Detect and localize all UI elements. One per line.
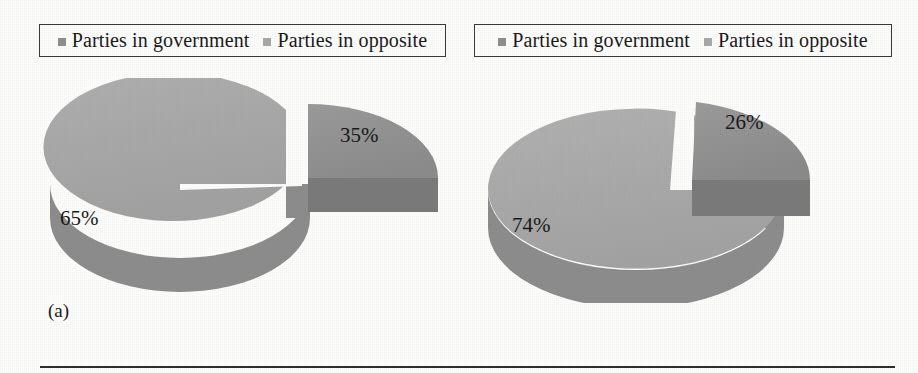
slice-main-a-cutwall bbox=[286, 184, 308, 218]
legend-label-government: Parties in government bbox=[512, 29, 690, 52]
legend-entry-opposite-a: Parties in opposite bbox=[263, 29, 427, 52]
pie-b-label-exploded: 26% bbox=[725, 110, 764, 135]
legend-entry-opposite-b: Parties in opposite bbox=[704, 29, 868, 52]
pie-a-label-main: 65% bbox=[60, 206, 99, 231]
pie-chart-a: 65% 35% bbox=[40, 78, 440, 293]
legend-swatch-government-icon bbox=[498, 38, 506, 46]
chart-panel-a: Parties in government Parties in opposit… bbox=[0, 0, 459, 345]
legend-label-opposite: Parties in opposite bbox=[718, 29, 868, 52]
pie-chart-b: 74% 26% bbox=[480, 78, 890, 303]
bottom-divider bbox=[40, 366, 895, 368]
slice-exploded-b-side bbox=[692, 180, 810, 216]
legend-label-government: Parties in government bbox=[72, 29, 250, 52]
legend-swatch-opposite-icon bbox=[263, 38, 271, 46]
pie-b-svg bbox=[480, 78, 890, 303]
legend-entry-government-a: Parties in government bbox=[58, 29, 250, 52]
slice-main-a bbox=[43, 78, 310, 292]
slice-main-a-top bbox=[43, 78, 286, 221]
slice-exploded-a bbox=[308, 104, 438, 212]
legend-swatch-opposite-icon bbox=[704, 38, 712, 46]
chart-panel-b: Parties in government Parties in opposit… bbox=[459, 0, 918, 345]
figure-container: Parties in government Parties in opposit… bbox=[0, 0, 918, 373]
legend-label-opposite: Parties in opposite bbox=[277, 29, 427, 52]
pie-a-label-exploded: 35% bbox=[340, 123, 379, 148]
slice-exploded-a-side bbox=[308, 178, 438, 212]
legend-a: Parties in government Parties in opposit… bbox=[39, 24, 446, 57]
subcaption-a: (a) bbox=[48, 300, 69, 322]
legend-entry-government-b: Parties in government bbox=[498, 29, 690, 52]
pie-b-label-main: 74% bbox=[512, 213, 551, 238]
pie-a-svg bbox=[40, 78, 440, 293]
legend-swatch-government-icon bbox=[58, 38, 66, 46]
legend-b: Parties in government Parties in opposit… bbox=[474, 24, 892, 57]
